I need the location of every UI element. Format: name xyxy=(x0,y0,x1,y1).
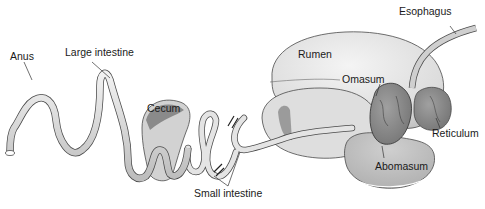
anus-opening xyxy=(6,151,15,156)
label-rumen: Rumen xyxy=(298,49,332,60)
label-omasum: Omasum xyxy=(342,74,385,85)
label-large-intestine: Large intestine xyxy=(65,47,134,58)
digestive-tract-diagram xyxy=(0,0,485,209)
label-small-intestine: Small intestine xyxy=(194,188,262,199)
omasum-organ xyxy=(370,83,412,144)
label-reticulum: Reticulum xyxy=(432,128,479,139)
label-esophagus: Esophagus xyxy=(399,6,452,17)
label-abomasum: Abomasum xyxy=(375,161,428,172)
reticulum-organ xyxy=(414,87,451,130)
label-cecum: Cecum xyxy=(147,103,180,114)
label-anus: Anus xyxy=(10,51,34,62)
